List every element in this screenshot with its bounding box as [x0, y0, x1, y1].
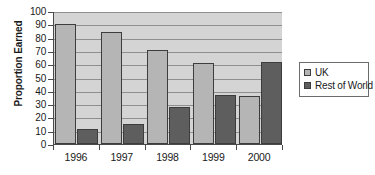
chart-legend: UKRest of World [299, 62, 369, 97]
legend-label: UK [315, 67, 329, 78]
y-tick-label: 50 [22, 75, 46, 83]
x-tick-label: 2000 [236, 151, 282, 163]
y-tick-label: 80 [22, 35, 46, 43]
x-tick-mark [190, 145, 191, 150]
bar-rest-of-world-1999 [215, 95, 236, 144]
legend-item: UK [304, 66, 364, 79]
bars-layer [54, 12, 282, 144]
x-tick-mark [53, 145, 54, 150]
bar-rest-of-world-1997 [123, 124, 144, 144]
plot-area [53, 12, 282, 145]
bar-uk-1999 [193, 63, 214, 144]
bar-rest-of-world-2000 [261, 62, 282, 144]
legend-item: Rest of World [304, 79, 364, 92]
x-tick-label: 1998 [145, 151, 191, 163]
legend-swatch-icon [304, 69, 311, 76]
y-tick-label: 20 [22, 114, 46, 122]
legend-swatch-icon [304, 82, 311, 89]
y-tick-label: 70 [22, 48, 46, 56]
x-axis-tick-labels: 19961997199819992000 [53, 151, 282, 167]
y-tick-label: 0 [22, 141, 46, 149]
legend-label: Rest of World [315, 80, 373, 91]
x-tick-mark [99, 145, 100, 150]
x-tick-mark [236, 145, 237, 150]
x-tick-label: 1996 [53, 151, 99, 163]
bar-group [191, 12, 237, 144]
bar-group [100, 12, 146, 144]
bar-group [146, 12, 192, 144]
bar-uk-1996 [55, 24, 76, 144]
x-tick-mark [145, 145, 146, 150]
x-axis-tick-marks [53, 145, 283, 150]
y-tick-label: 30 [22, 101, 46, 109]
bar-rest-of-world-1996 [77, 129, 98, 144]
bar-chart: Proportion Earned 0102030405060708090100… [0, 0, 375, 175]
bar-uk-1997 [101, 32, 122, 144]
x-tick-mark [282, 145, 283, 150]
x-tick-label: 1999 [190, 151, 236, 163]
bar-group [237, 12, 283, 144]
y-tick-label: 60 [22, 61, 46, 69]
y-axis-tick-labels: 0102030405060708090100 [22, 12, 46, 145]
y-tick-label: 100 [22, 8, 46, 16]
x-tick-label: 1997 [99, 151, 145, 163]
y-tick-label: 10 [22, 128, 46, 136]
y-tick-label: 90 [22, 21, 46, 29]
bar-uk-2000 [239, 96, 260, 144]
bar-uk-1998 [147, 50, 168, 144]
bar-group [54, 12, 100, 144]
y-tick-label: 40 [22, 88, 46, 96]
bar-rest-of-world-1998 [169, 107, 190, 144]
